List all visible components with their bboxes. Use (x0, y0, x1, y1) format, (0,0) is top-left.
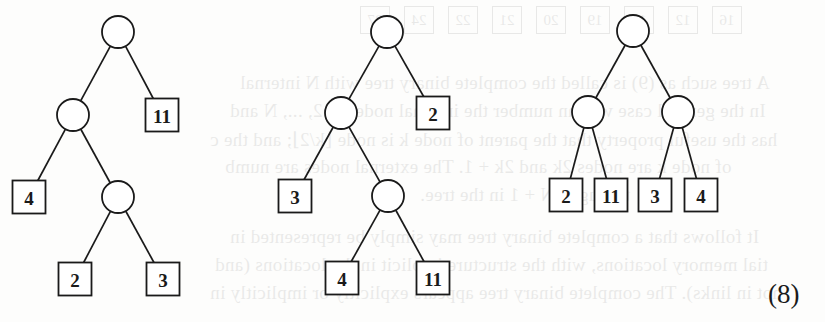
tree-edge (592, 127, 606, 178)
external-leaf-4: 4 (326, 262, 359, 295)
tree-edge (395, 46, 424, 97)
external-leaf-3: 3 (639, 179, 672, 212)
tree-edge (570, 127, 584, 178)
leaf-weight: 3 (290, 187, 300, 208)
leaf-weight: 4 (24, 188, 34, 209)
binary-tree-1: 11423 (13, 16, 180, 296)
leaf-weight: 3 (650, 186, 660, 207)
external-leaf-2: 2 (550, 179, 583, 212)
binary-tree-2: 23411 (279, 16, 450, 295)
tree-edge (396, 210, 424, 261)
external-leaf-2: 2 (417, 97, 450, 130)
internal-node (371, 16, 403, 48)
internal-node (617, 15, 649, 47)
tree-edge (125, 46, 153, 98)
tree-edge (126, 211, 154, 262)
tree-edge (596, 45, 625, 98)
tree-edge (682, 127, 696, 178)
leaf-weight: 3 (158, 270, 168, 291)
equation-number: (8) (768, 279, 799, 310)
external-leaf-11: 11 (146, 99, 179, 132)
internal-node (102, 16, 134, 48)
tree-edge (641, 45, 670, 98)
scanned-page: 16 12 18 19 20 21 22 24 27 A tree such a… (0, 0, 825, 322)
external-leaf-11: 11 (595, 179, 628, 212)
leaf-weight: 11 (602, 186, 620, 207)
leaf-weight: 11 (424, 269, 442, 290)
tree-edge (351, 210, 380, 262)
internal-node (102, 181, 134, 213)
tree-edge (81, 46, 111, 101)
leaf-weight: 4 (337, 269, 347, 290)
leaf-weight: 4 (696, 186, 706, 207)
tree-edge (38, 129, 66, 180)
binary-tree-3: 21134 (550, 15, 718, 212)
binary-trees-figure: 114232341121134 (0, 0, 825, 322)
leaf-weight: 2 (428, 104, 438, 125)
tree-edge (304, 127, 333, 180)
tree-edge (84, 211, 111, 262)
external-leaf-4: 4 (13, 181, 46, 214)
tree-edge (660, 127, 674, 178)
internal-node (325, 97, 357, 129)
leaf-weight: 11 (153, 106, 171, 127)
leaf-weight: 2 (561, 186, 571, 207)
internal-node (372, 180, 404, 212)
internal-node (662, 96, 694, 128)
leaf-weight: 2 (70, 270, 80, 291)
tree-edge (81, 129, 111, 183)
external-leaf-11: 11 (417, 262, 450, 295)
internal-node (572, 96, 604, 128)
external-leaf-3: 3 (279, 180, 312, 213)
internal-node (57, 99, 89, 131)
external-leaf-4: 4 (685, 179, 718, 212)
tree-edge (349, 46, 379, 99)
tree-edge (349, 127, 380, 182)
external-leaf-2: 2 (59, 263, 92, 296)
external-leaf-3: 3 (147, 263, 180, 296)
